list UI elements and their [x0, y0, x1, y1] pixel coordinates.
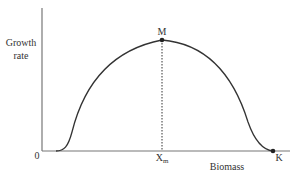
x-axis-label: Biomass [210, 161, 245, 172]
origin-label: 0 [35, 150, 40, 161]
growth-curve [56, 40, 273, 151]
xm-label-sub: m [163, 157, 169, 165]
y-axis-label-line2: rate [14, 50, 30, 61]
max-label: M [158, 26, 167, 37]
growth-rate-chart: Growth rate 0 M Xm Biomass K [0, 0, 292, 181]
k-label: K [275, 152, 283, 163]
xm-label: Xm [156, 152, 169, 165]
y-axis-label-line1: Growth [6, 37, 37, 48]
max-point-m [160, 38, 165, 43]
